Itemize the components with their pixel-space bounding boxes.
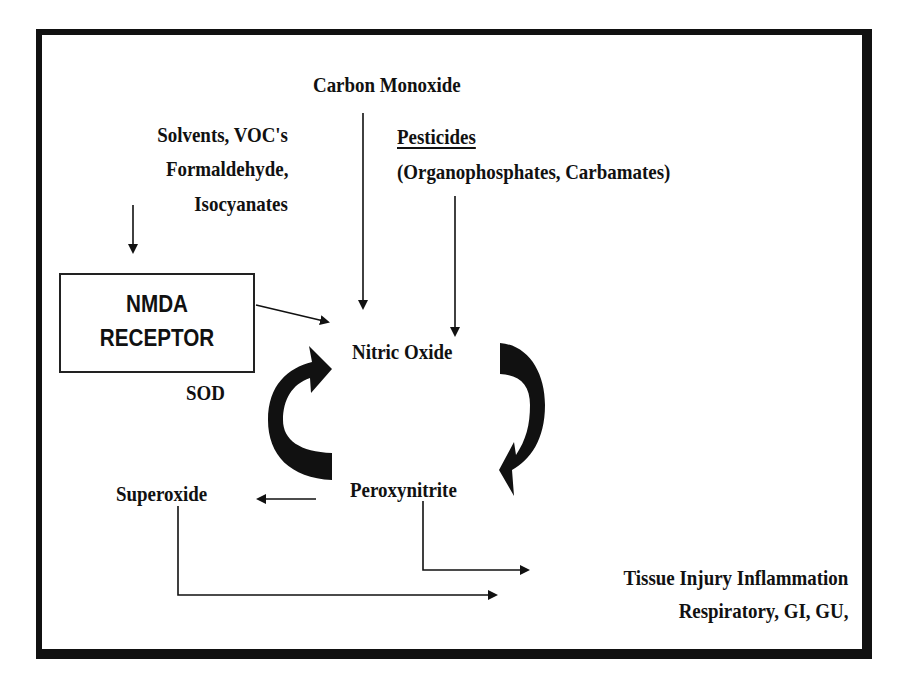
nmda-label-line1: NMDA [74, 289, 239, 319]
label-outcome-line2: Respiratory, GI, GU, [678, 598, 848, 624]
nmda-receptor-box: NMDA RECEPTOR [59, 273, 255, 373]
label-nitric-oxide: Nitric Oxide [352, 339, 452, 365]
label-outcome-line1: Tissue Injury Inflammation [623, 565, 848, 591]
nmda-label-line2: RECEPTOR [74, 323, 239, 353]
label-pesticides: Pesticides [397, 124, 476, 150]
label-solvents-line1: Solvents, VOC's [157, 122, 288, 148]
label-peroxynitrite: Peroxynitrite [350, 477, 457, 503]
label-solvents-line2: Formaldehyde, [166, 156, 288, 182]
label-solvents-line3: Isocyanates [194, 191, 288, 217]
label-superoxide: Superoxide [116, 481, 207, 507]
label-pesticides-subtitle: (Organophosphates, Carbamates) [397, 159, 670, 185]
label-carbon-monoxide: Carbon Monoxide [313, 72, 461, 98]
label-sod: SOD [186, 380, 225, 406]
